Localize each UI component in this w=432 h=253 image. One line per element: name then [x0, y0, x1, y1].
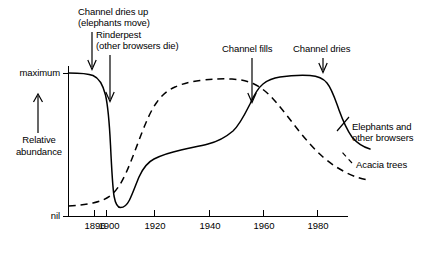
- annotation-rinderpest-line2: (other browsers die): [96, 40, 178, 52]
- series-label-acacia-line1: Acacia trees: [356, 159, 407, 171]
- annotation-channel-dries-up-line2: (elephants move): [78, 17, 150, 29]
- chart-figure: maximum nil Relative abundance 1896 1900…: [0, 0, 432, 253]
- series-label-elephants-line1: Elephants and: [352, 121, 411, 133]
- y-axis-title-line1: Relative: [4, 134, 74, 146]
- arrow-channel-fills: [248, 58, 256, 103]
- annotation-channel-dries-line1: Channel dries: [293, 43, 350, 55]
- x-tick-label-1980: 1980: [297, 220, 339, 231]
- y-axis-max-label: maximum: [2, 67, 60, 79]
- arrow-rinderpest: [106, 55, 114, 102]
- series-label-elephants-line2: other browsers: [352, 132, 413, 144]
- annotation-channel-fills-line1: Channel fills: [222, 43, 272, 55]
- y-axis-nil-label: nil: [24, 210, 60, 222]
- leader-acacia: [341, 151, 352, 163]
- annotation-channel-dries-up-line1: Channel dries up: [78, 6, 148, 18]
- arrow-channel-dries: [319, 58, 327, 73]
- annotation-rinderpest-line1: Rinderpest: [96, 29, 141, 41]
- x-axis-ticks: [95, 210, 318, 217]
- x-tick-label-1960: 1960: [243, 220, 285, 231]
- arrow-channel-dries-up: [88, 32, 96, 70]
- x-tick-label-1940: 1940: [189, 220, 231, 231]
- x-tick-label-1900: 1900: [88, 220, 130, 231]
- y-axis-title-line2: abundance: [0, 146, 78, 158]
- x-tick-label-1920: 1920: [134, 220, 176, 231]
- relative-abundance-arrow: [34, 94, 43, 133]
